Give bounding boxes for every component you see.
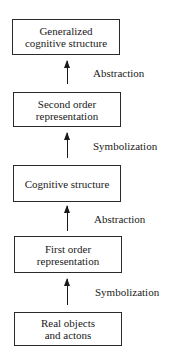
node-text: Second order [36,98,98,110]
node-text: representation [37,255,99,267]
node-text: cognitive structure [25,37,107,49]
edge-label-symbolization: Symbolization [95,286,159,298]
node-text: Generalized [25,25,107,37]
arrow-up-icon [67,279,68,305]
node-text: and actons [41,329,95,341]
node-cognitive-structure: Cognitive structure [13,165,121,202]
node-second-order-representation: Second order representation [13,92,121,127]
node-real-objects-and-actons: Real objects and actons [14,312,122,346]
arrow-up-icon [67,133,68,158]
node-generalized-cognitive-structure: Generalized cognitive structure [12,19,120,55]
arrow-up-icon [67,206,68,231]
node-text: Real objects [41,317,95,329]
edge-label-abstraction: Abstraction [93,67,144,79]
edge-label-symbolization: Symbolization [93,140,157,152]
node-first-order-representation: First order representation [14,236,122,273]
node-text: First order [37,243,99,255]
arrow-up-icon [67,61,68,84]
node-text: Cognitive structure [25,178,110,190]
node-text: representation [36,110,98,122]
edge-label-abstraction: Abstraction [94,213,145,225]
